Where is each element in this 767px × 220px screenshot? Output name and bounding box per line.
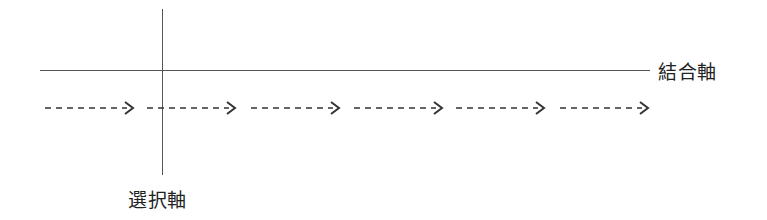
dashed-arrow-icon	[251, 96, 347, 120]
selection-axis-line	[162, 9, 163, 175]
combination-axis-label: 結合軸	[658, 57, 717, 84]
dashed-arrow-icon	[456, 96, 552, 120]
dashed-arrow-icon	[147, 96, 243, 120]
selection-axis-label: 選択軸	[128, 185, 187, 212]
dashed-arrow-icon	[354, 96, 450, 120]
dashed-arrow-icon	[45, 96, 141, 120]
combination-axis-line	[40, 70, 650, 71]
dashed-arrow-icon	[560, 96, 656, 120]
dashed-arrow-row	[0, 96, 767, 120]
